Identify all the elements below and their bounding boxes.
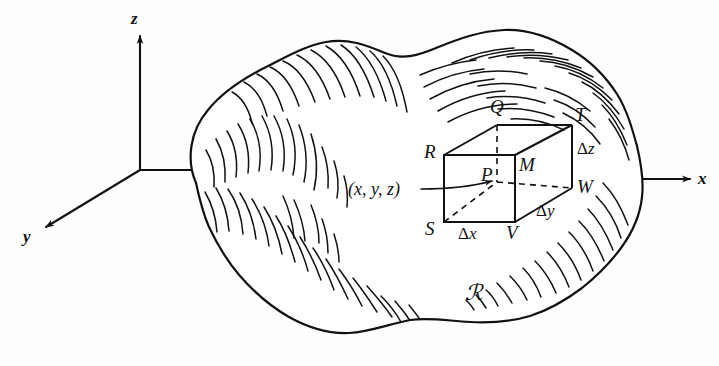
point-label-p: P — [481, 165, 493, 184]
coordinate-label: (x, y, z) — [348, 180, 400, 198]
delta-x-variable: x — [469, 224, 477, 243]
delta-y-variable: y — [547, 201, 555, 220]
delta-y-label: Δy — [536, 202, 554, 219]
figure-canvas: z y x ℛ Q T R M W S V P (x, y, z) Δx Δy … — [0, 0, 719, 366]
vertex-label-s: S — [425, 219, 435, 238]
delta-y-symbol: Δ — [536, 201, 547, 220]
vertex-label-v: V — [506, 223, 518, 242]
vertex-label-m: M — [519, 155, 535, 174]
delta-x-symbol: Δ — [458, 224, 469, 243]
delta-z-symbol: Δ — [577, 139, 588, 158]
x-axis-label: x — [698, 170, 707, 187]
region-label: ℛ — [465, 282, 483, 304]
y-axis-label: y — [23, 228, 31, 245]
z-axis-label: z — [131, 10, 138, 27]
delta-z-variable: z — [588, 139, 595, 158]
delta-z-label: Δz — [577, 140, 595, 157]
y-axis-line — [46, 170, 140, 227]
vertex-label-t: T — [575, 105, 586, 124]
vertex-label-q: Q — [490, 97, 504, 116]
vertex-label-w: W — [577, 177, 593, 196]
vertex-label-r: R — [424, 142, 436, 161]
delta-x-label: Δx — [458, 225, 476, 242]
